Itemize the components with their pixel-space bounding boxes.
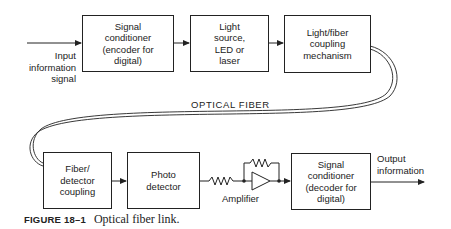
photo-detector-block: Photo detector xyxy=(127,152,200,209)
light-fiber-coupling-block-text: Light/fiber coupling mechanism xyxy=(303,27,352,62)
amplifier-circuit xyxy=(199,159,290,190)
amplifier-triangle-icon xyxy=(252,172,270,190)
fiber-detector-coupling-block: Fiber/ detector coupling xyxy=(43,152,112,209)
fiber-detector-coupling-block-text: Fiber/ detector coupling xyxy=(60,163,95,198)
light-source-block: Light source, LED or laser xyxy=(190,15,269,72)
figure-caption: FIGURE 18–1Optical fiber link. xyxy=(24,212,180,227)
decoder-block-text: Signal conditioner (decoder for digital) xyxy=(305,159,356,205)
optical-fiber-label: OPTICAL FIBER xyxy=(191,99,270,110)
encoder-block-text: Signal conditioner (encoder for digital) xyxy=(102,21,153,67)
signal-conditioner-decoder-block: Signal conditioner (decoder for digital) xyxy=(291,153,371,210)
signal-conditioner-encoder-block: Signal conditioner (encoder for digital) xyxy=(82,15,174,72)
output-information-label: Output information xyxy=(377,153,424,176)
junction-dot-icon xyxy=(277,179,281,183)
amplifier-label: Amplifier xyxy=(222,193,259,205)
input-signal-label: Input information signal xyxy=(23,50,76,85)
photo-detector-block-text: Photo detector xyxy=(146,169,180,192)
junction-dot-icon xyxy=(242,179,246,183)
light-fiber-coupling-block: Light/fiber coupling mechanism xyxy=(284,15,371,73)
light-source-block-text: Light source, LED or laser xyxy=(214,21,245,67)
input-resistor-icon xyxy=(209,177,233,185)
figure-caption-text: Optical fiber link. xyxy=(94,212,180,226)
optical-fiber-link-diagram: Input information signal Signal conditio… xyxy=(0,0,451,229)
figure-number: FIGURE 18–1 xyxy=(24,214,86,225)
feedback-resistor-icon xyxy=(250,159,271,167)
